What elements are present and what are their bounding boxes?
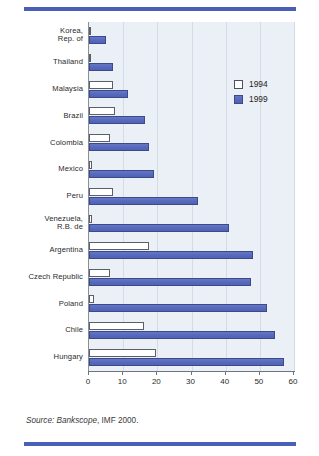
gridline [260, 22, 261, 371]
axis-tick [225, 371, 226, 375]
category-label: Czech Republic [17, 273, 83, 282]
category-label: Malaysia [17, 85, 83, 94]
axis-tick-label: 10 [118, 377, 127, 386]
bar-1994 [89, 27, 91, 35]
chart-area: Korea,Rep. ofThailandMalaysiaBrazilColom… [19, 22, 297, 382]
source-database: Bankscope [54, 416, 97, 425]
plot-area [88, 22, 295, 371]
bar-1994 [89, 215, 92, 223]
white-square-swatch-icon [234, 80, 243, 89]
value-axis-line [88, 371, 295, 372]
category-label-line: Mexico [17, 165, 83, 174]
chart-legend: 1994 1999 [234, 78, 268, 108]
bar-1999 [89, 63, 113, 71]
bar-1994 [89, 349, 156, 357]
category-label: Poland [17, 300, 83, 309]
source-rest: , IMF 2000. [97, 416, 138, 425]
axis-tick [259, 371, 260, 375]
legend-item: 1994 [234, 78, 268, 90]
category-label: Colombia [17, 139, 83, 148]
category-label-line: Chile [17, 326, 83, 335]
category-label-line: Malaysia [17, 85, 83, 94]
bar-1994 [89, 107, 115, 115]
axis-tick [191, 371, 192, 375]
category-label-line: Czech Republic [17, 273, 83, 282]
category-label: Argentina [17, 246, 83, 255]
bar-1999 [89, 90, 128, 98]
category-label-line: Brazil [17, 112, 83, 121]
category-label-line: Thailand [17, 58, 83, 67]
gridline [226, 22, 227, 371]
gridline [294, 22, 295, 371]
category-label: Chile [17, 326, 83, 335]
bar-1994 [89, 295, 94, 303]
bar-1999 [89, 251, 253, 259]
axis-tick-label: 0 [86, 377, 90, 386]
bar-1994 [89, 81, 113, 89]
bar-1999 [89, 143, 149, 151]
category-label: Peru [17, 192, 83, 201]
bar-1999 [89, 224, 229, 232]
bar-1999 [89, 358, 284, 366]
source-note: Source: Bankscope, IMF 2000. [26, 416, 138, 425]
bar-1994 [89, 134, 110, 142]
bar-1999 [89, 116, 145, 124]
bar-1999 [89, 331, 275, 339]
bar-1999 [89, 197, 198, 205]
category-label-line: Argentina [17, 246, 83, 255]
axis-tick-label: 20 [152, 377, 161, 386]
category-label-line: Rep. of [17, 35, 83, 44]
axis-tick-label: 40 [220, 377, 229, 386]
bar-1994 [89, 322, 144, 330]
bar-1994 [89, 161, 92, 169]
category-label-line: Hungary [17, 353, 83, 362]
bar-1994 [89, 188, 113, 196]
axis-tick [122, 371, 123, 375]
category-label-line: Poland [17, 300, 83, 309]
bar-1999 [89, 278, 251, 286]
category-label: Brazil [17, 112, 83, 121]
axis-tick [156, 371, 157, 375]
axis-tick [88, 371, 89, 375]
legend-label: 1999 [249, 95, 268, 104]
source-prefix: Source: [26, 416, 54, 425]
bottom-rule [24, 442, 296, 446]
axis-tick-label: 50 [254, 377, 263, 386]
category-label: Venezuela,R.B. de [17, 215, 83, 232]
category-label-line: R.B. de [17, 223, 83, 232]
category-axis-labels: Korea,Rep. ofThailandMalaysiaBrazilColom… [19, 22, 87, 382]
bar-1994 [89, 242, 149, 250]
category-label: Mexico [17, 165, 83, 174]
chart-page: Korea,Rep. ofThailandMalaysiaBrazilColom… [0, 0, 319, 456]
category-label-line: Colombia [17, 139, 83, 148]
bar-1994 [89, 54, 91, 62]
category-label: Hungary [17, 353, 83, 362]
bar-1994 [89, 269, 110, 277]
axis-tick [293, 371, 294, 375]
bar-1999 [89, 304, 267, 312]
blue-square-swatch-icon [234, 95, 243, 104]
category-label-line: Peru [17, 192, 83, 201]
axis-tick-label: 30 [186, 377, 195, 386]
legend-item: 1999 [234, 93, 268, 105]
axis-tick-label: 60 [289, 377, 298, 386]
category-label: Korea,Rep. of [17, 27, 83, 44]
top-rule [24, 7, 296, 11]
category-label: Thailand [17, 58, 83, 67]
legend-label: 1994 [249, 80, 268, 89]
bar-1999 [89, 170, 154, 178]
bar-1999 [89, 36, 106, 44]
